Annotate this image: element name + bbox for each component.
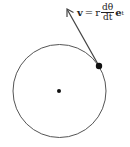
fraction-denominator: dt [103, 13, 112, 22]
radius-symbol: r [95, 7, 100, 18]
moving-point [96, 63, 102, 69]
velocity-formula: v = r dθ dt et [77, 3, 124, 22]
unit-vector-subscript: t [122, 9, 124, 16]
diagram-canvas [0, 0, 130, 147]
equals-sign: = [85, 7, 93, 18]
velocity-symbol: v [77, 7, 83, 18]
center-point [57, 89, 61, 93]
derivative-fraction: dθ dt [101, 3, 114, 22]
